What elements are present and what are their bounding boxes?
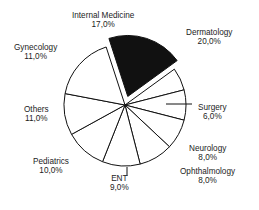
pie-label-neurology: Neurology8,0% <box>189 144 226 162</box>
pie-label-value: 10,0% <box>33 166 69 175</box>
pie-label-value: 17,0% <box>72 20 134 29</box>
pie-label-value: 8,0% <box>180 176 235 185</box>
pie-label-value: 20,0% <box>186 37 232 46</box>
pie-label-value: 8,0% <box>189 153 226 162</box>
pie-label-name: Internal Medicine <box>72 11 134 20</box>
pie-label-surgery: Surgery6,0% <box>198 103 227 121</box>
pie-label-name: ENT <box>110 174 129 183</box>
pie-label-name: Others <box>24 105 49 114</box>
pie-label-internal-medicine: Internal Medicine17,0% <box>72 11 134 29</box>
pie-label-name: Neurology <box>189 144 226 153</box>
pie-label-value: 11,0% <box>14 52 57 61</box>
pie-label-name: Pediatrics <box>33 157 69 166</box>
pie-label-dermatology: Dermatology20,0% <box>186 28 232 46</box>
pie-label-name: Surgery <box>198 103 227 112</box>
pie-label-ent: ENT9,0% <box>110 174 129 192</box>
pie-label-value: 11,0% <box>24 114 49 123</box>
pie-label-gynecology: Gynecology11,0% <box>14 43 57 61</box>
pie-label-ophthalmology: Ophthalmology8,0% <box>180 167 235 185</box>
pie-label-pediatrics: Pediatrics10,0% <box>33 157 69 175</box>
pie-label-others: Others11,0% <box>24 105 49 123</box>
pie-label-name: Dermatology <box>186 28 232 37</box>
pie-slices-layer <box>64 35 186 166</box>
pie-label-value: 9,0% <box>110 183 129 192</box>
pie-label-name: Gynecology <box>14 43 57 52</box>
pie-label-name: Ophthalmology <box>180 167 235 176</box>
pie-chart: Dermatology20,0%Surgery6,0%Neurology8,0%… <box>0 0 259 210</box>
pie-label-value: 6,0% <box>198 112 227 121</box>
